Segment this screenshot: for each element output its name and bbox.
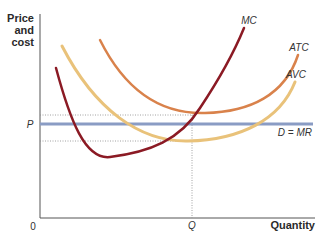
atc-curve bbox=[100, 40, 298, 113]
y-axis-label-line2: and bbox=[14, 24, 34, 36]
avc-curve bbox=[62, 46, 295, 141]
price-tick-label: P bbox=[27, 119, 34, 130]
x-axis-label: Quantity bbox=[270, 219, 315, 231]
mc-label: MC bbox=[241, 15, 257, 26]
demand-mr-label: D = MR bbox=[278, 127, 312, 138]
origin-label: 0 bbox=[30, 221, 36, 232]
avc-label: AVC bbox=[285, 69, 307, 80]
y-axis-label-line3: cost bbox=[11, 36, 34, 48]
y-axis-label-line1: Price bbox=[7, 12, 34, 24]
quantity-tick-label: Q bbox=[188, 220, 196, 231]
cost-curves-chart: Price and cost P 0 Q Quantity MC ATC AVC… bbox=[0, 0, 325, 238]
atc-label: ATC bbox=[288, 42, 309, 53]
